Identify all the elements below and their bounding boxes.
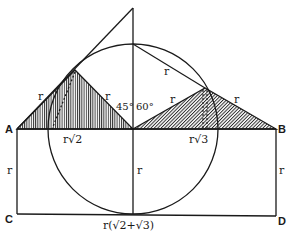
label-r-sqrt2: r√2 (63, 133, 82, 146)
label-bottom-length: r(√2+√3) (103, 219, 154, 232)
label-r-sqrt3: r√3 (189, 133, 208, 146)
point-B-label: B (278, 123, 286, 135)
label-angle-60: 60° (136, 101, 154, 112)
left-hatched-triangle (17, 70, 133, 129)
label-r-right-right: r (234, 93, 240, 106)
line-CD (17, 214, 276, 216)
label-r-center-left: r (105, 90, 111, 103)
label-r-center-vertical: r (137, 164, 143, 177)
right-hatched-triangle (133, 88, 276, 129)
point-D-label: D (278, 215, 286, 227)
label-angle-45: 45° (116, 101, 134, 112)
label-r-right-left: r (170, 93, 176, 106)
label-r-right-side: r (279, 164, 285, 177)
label-r-left-side: r (7, 164, 13, 177)
label-r-chord: r (164, 65, 170, 78)
label-r-left-upper: r (38, 90, 44, 103)
geometry-diagram: A B C D r r r r r r r r r√2 r√3 r(√2+√3)… (0, 0, 289, 235)
point-C-label: C (5, 213, 13, 225)
point-A-label: A (5, 123, 13, 135)
